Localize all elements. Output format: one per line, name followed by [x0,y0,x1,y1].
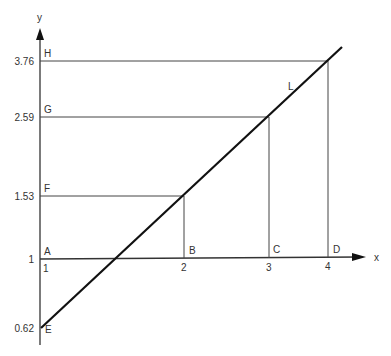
point-E: E [45,324,52,335]
x-axis [40,257,360,259]
y-tick-3.76: 3.76 [15,56,35,67]
line-L [41,47,342,328]
y-axis-label: y [37,12,42,23]
y-tick-0.62: 0.62 [15,323,35,334]
x-tick-1: 1 [43,263,49,274]
point-D: D [333,244,340,255]
x-tick-3: 3 [266,262,272,273]
x-axis-arrow-icon [352,253,366,261]
line-L-label: L [288,81,294,92]
point-F: F [44,183,50,194]
y-tick-2.59: 2.59 [15,112,35,123]
point-H: H [44,48,51,59]
x-axis-label: x [374,252,379,263]
x-tick-4: 4 [325,261,331,272]
point-A: A [44,246,51,257]
y-axis-arrow-icon [36,28,44,40]
y-tick-1.53: 1.53 [15,191,35,202]
point-B: B [189,245,196,256]
point-C: C [273,244,280,255]
log-graph-diagram: y x L 3.76 2.59 1.53 1 0.62 H G F A E B … [0,0,391,356]
point-G: G [44,104,52,115]
x-tick-2: 2 [181,262,187,273]
y-tick-1: 1 [28,254,34,265]
